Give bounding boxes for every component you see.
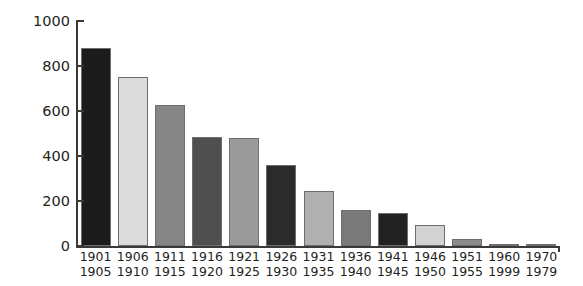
category-label-line1: 1921 (228, 249, 260, 264)
x-axis-category-label: 19461950 (411, 250, 448, 279)
category-label-line1: 1951 (451, 249, 483, 264)
bar (452, 239, 482, 246)
category-label-line1: 1970 (526, 249, 558, 264)
category-label-line2: 1905 (77, 265, 114, 280)
bar (118, 77, 148, 246)
category-label-line1: 1926 (265, 249, 297, 264)
y-axis-tick-mark (76, 65, 84, 67)
category-label-line2: 1950 (411, 265, 448, 280)
y-axis-tick-label: 1000 (26, 14, 70, 29)
bar (378, 213, 408, 246)
category-label-line2: 1999 (486, 265, 523, 280)
bar (229, 138, 259, 246)
bar (192, 137, 222, 246)
category-label-line1: 1911 (154, 249, 186, 264)
y-axis-tick-mark (76, 20, 84, 22)
category-label-line1: 1936 (340, 249, 372, 264)
bar (155, 105, 185, 246)
y-axis-tick-label: 200 (26, 194, 70, 209)
x-axis-category-label: 19361940 (337, 250, 374, 279)
category-label-line2: 1915 (151, 265, 188, 280)
y-axis-tick-mark (76, 155, 84, 157)
y-axis-tick-mark (76, 110, 84, 112)
bar-chart: 02004006008001000 1901190519061910191119… (0, 0, 583, 286)
x-axis-category-label: 19011905 (77, 250, 114, 279)
category-label-line2: 1910 (114, 265, 151, 280)
category-label-line2: 1925 (226, 265, 263, 280)
x-axis-category-label: 19111915 (151, 250, 188, 279)
category-label-line1: 1946 (414, 249, 446, 264)
x-axis-category-label: 19211925 (226, 250, 263, 279)
category-label-line1: 1941 (377, 249, 409, 264)
y-axis-tick-label: 0 (26, 239, 70, 254)
category-label-line2: 1920 (188, 265, 225, 280)
x-axis-category-label: 19311935 (300, 250, 337, 279)
category-label-line2: 1940 (337, 265, 374, 280)
category-label-line1: 1960 (488, 249, 520, 264)
bar (304, 191, 334, 246)
category-label-line2: 1930 (263, 265, 300, 280)
y-axis-tick-label: 800 (26, 59, 70, 74)
category-label-line2: 1935 (300, 265, 337, 280)
bar (415, 225, 445, 246)
y-axis-tick-mark (76, 200, 84, 202)
y-axis-tick-mark (76, 245, 84, 247)
category-label-line2: 1955 (449, 265, 486, 280)
y-axis-tick-labels: 02004006008001000 (0, 0, 70, 286)
x-axis-category-label: 19161920 (188, 250, 225, 279)
category-label-line1: 1906 (117, 249, 149, 264)
x-axis-category-label: 19511955 (449, 250, 486, 279)
category-label-line1: 1901 (80, 249, 112, 264)
bar (341, 210, 371, 246)
bar (81, 48, 111, 246)
x-axis-line (76, 246, 560, 248)
category-label-line2: 1945 (374, 265, 411, 280)
x-axis-category-label: 19061910 (114, 250, 151, 279)
category-label-line2: 1979 (523, 265, 560, 280)
x-axis-category-labels: 1901190519061910191119151916192019211925… (77, 250, 560, 284)
bar (489, 244, 519, 246)
x-axis-category-label: 19601999 (486, 250, 523, 279)
x-axis-category-label: 19411945 (374, 250, 411, 279)
y-axis-tick-label: 600 (26, 104, 70, 119)
category-label-line1: 1931 (303, 249, 335, 264)
x-axis-category-label: 19261930 (263, 250, 300, 279)
bar (266, 165, 296, 246)
plot-area (77, 21, 560, 246)
category-label-line1: 1916 (191, 249, 223, 264)
x-axis-category-label: 19701979 (523, 250, 560, 279)
y-axis-tick-label: 400 (26, 149, 70, 164)
bar (526, 244, 556, 246)
